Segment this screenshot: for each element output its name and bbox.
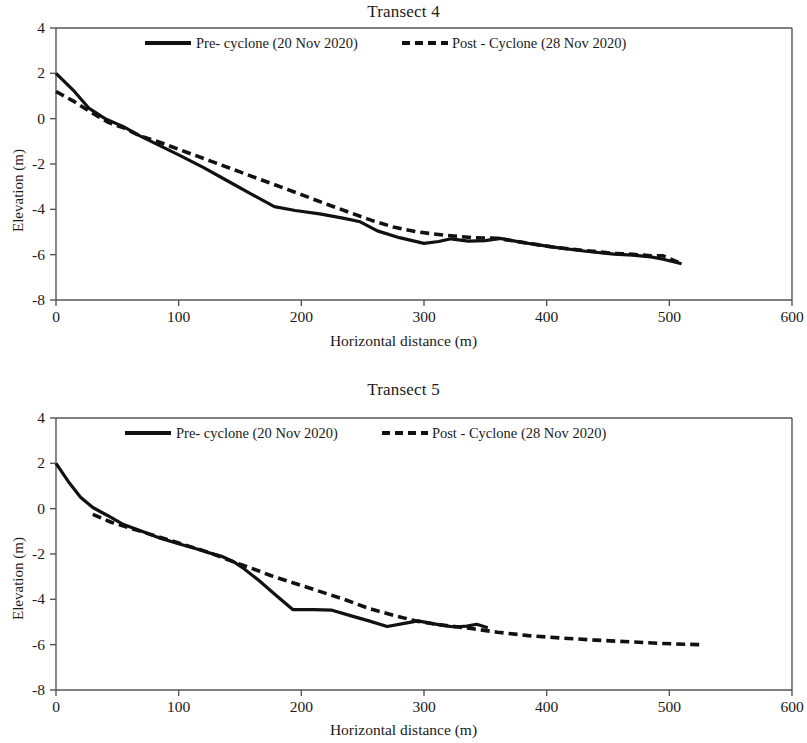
legend-label-pre-cyclone: Pre- cyclone (20 Nov 2020) [176,426,338,441]
series-line-pre-cyclone [56,73,682,263]
chart-transect-4: Transect 4 Elevation (m) Horizontal dist… [0,0,807,372]
data-series [56,73,682,263]
y-tick-label: -4 [32,590,45,608]
y-tick-label: 2 [37,454,45,472]
plot-area-wrapper [0,0,807,372]
y-tick-label: -6 [32,636,45,654]
legend-entry-pre-cyclone: Pre- cyclone (20 Nov 2020) [125,426,338,441]
series-line-pre-cyclone [56,463,488,627]
legend: Pre- cyclone (20 Nov 2020) Post - Cyclon… [125,426,606,441]
y-tick-label: -8 [32,291,45,309]
legend-label-post-cyclone: Post - Cyclone (28 Nov 2020) [452,36,626,51]
legend: Pre- cyclone (20 Nov 2020) Post - Cyclon… [145,36,626,51]
tick-marks [50,418,792,696]
x-tick-label: 500 [658,308,681,326]
x-tick-label: 0 [52,698,60,716]
y-tick-label: -6 [32,246,45,264]
y-axis-title: Elevation (m) [10,537,27,620]
y-tick-label: -2 [32,545,45,563]
y-tick-label: -4 [32,200,45,218]
chart-transect-5: Transect 5 Elevation (m) Horizontal dist… [0,372,807,743]
y-tick-label: -2 [32,155,45,173]
dashed-line-swatch-icon [402,41,448,45]
legend-label-post-cyclone: Post - Cyclone (28 Nov 2020) [432,426,606,441]
y-tick-label: 4 [37,409,45,427]
x-tick-label: 600 [780,698,803,716]
x-tick-label: 100 [167,308,190,326]
x-tick-label: 200 [290,308,313,326]
y-tick-label: 4 [37,19,45,37]
x-axis-title: Horizontal distance (m) [0,332,807,350]
figure-page: Transect 4 Elevation (m) Horizontal dist… [0,0,807,743]
dashed-line-swatch-icon [382,431,428,435]
y-tick-label: 0 [37,500,45,518]
legend-entry-pre-cyclone: Pre- cyclone (20 Nov 2020) [145,36,358,51]
x-tick-label: 200 [290,698,313,716]
solid-line-swatch-icon [145,41,191,45]
x-tick-label: 600 [780,308,803,326]
x-tick-label: 400 [535,698,558,716]
x-axis-title: Horizontal distance (m) [0,721,807,739]
solid-line-swatch-icon [125,431,171,435]
y-axis-title: Elevation (m) [10,149,27,232]
legend-entry-post-cyclone: Post - Cyclone (28 Nov 2020) [402,36,626,51]
y-tick-label: 2 [37,64,45,82]
data-series [56,463,700,644]
axes-group [56,28,792,300]
x-tick-label: 300 [412,308,435,326]
axes-group [56,418,792,690]
legend-label-pre-cyclone: Pre- cyclone (20 Nov 2020) [196,36,358,51]
plot-canvas [0,0,807,372]
x-tick-label: 300 [412,698,435,716]
series-line-post-cyclone [56,91,679,262]
y-tick-label: 0 [37,110,45,128]
x-tick-label: 500 [658,698,681,716]
x-tick-label: 400 [535,308,558,326]
x-tick-label: 100 [167,698,190,716]
legend-entry-post-cyclone: Post - Cyclone (28 Nov 2020) [382,426,606,441]
x-tick-label: 0 [52,308,60,326]
y-tick-label: -8 [32,681,45,699]
